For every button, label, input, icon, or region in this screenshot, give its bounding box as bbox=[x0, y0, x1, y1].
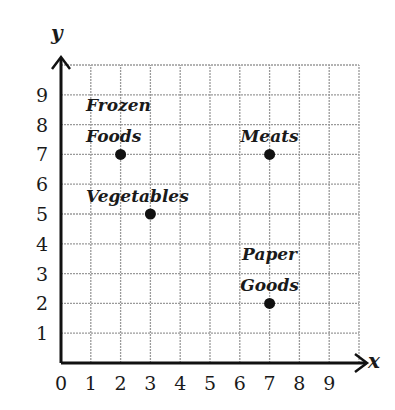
x-tick-label: 6 bbox=[234, 372, 246, 394]
data-point-label: Paper bbox=[241, 244, 298, 264]
y-axis-label: y bbox=[50, 21, 64, 45]
y-tick-label: 3 bbox=[36, 263, 48, 285]
x-tick-label: 4 bbox=[174, 372, 186, 394]
x-tick-label: 2 bbox=[115, 372, 127, 394]
data-point-label: Meats bbox=[240, 126, 300, 146]
y-tick-labels: 123456789 bbox=[36, 84, 48, 344]
data-point-label: Vegetables bbox=[86, 186, 189, 206]
data-points: FrozenFoodsMeatsVegetablesPaperGoods bbox=[85, 95, 299, 309]
x-tick-label: 0 bbox=[55, 372, 67, 394]
y-tick-label: 7 bbox=[36, 143, 48, 165]
x-tick-label: 3 bbox=[144, 372, 156, 394]
y-tick-label: 5 bbox=[36, 203, 48, 225]
data-point-label: Goods bbox=[240, 275, 299, 295]
y-tick-label: 2 bbox=[36, 292, 48, 314]
y-tick-label: 6 bbox=[36, 173, 48, 195]
x-tick-label: 8 bbox=[293, 372, 305, 394]
data-point-marker bbox=[115, 149, 126, 160]
data-point-label: Frozen bbox=[85, 95, 151, 115]
x-tick-labels: 0123456789 bbox=[55, 372, 335, 394]
coordinate-grid-chart: 0123456789 123456789 FrozenFoodsMeatsVeg… bbox=[0, 0, 395, 410]
data-point-label: Foods bbox=[85, 126, 142, 146]
data-point-marker bbox=[264, 149, 275, 160]
data-point-group: PaperGoods bbox=[240, 244, 299, 309]
x-tick-label: 7 bbox=[264, 372, 276, 394]
x-tick-label: 5 bbox=[204, 372, 216, 394]
y-tick-label: 1 bbox=[36, 322, 48, 344]
y-tick-label: 8 bbox=[36, 114, 48, 136]
x-tick-label: 9 bbox=[323, 372, 335, 394]
y-tick-label: 4 bbox=[36, 233, 48, 255]
y-tick-label: 9 bbox=[36, 84, 48, 106]
data-point-group: FrozenFoods bbox=[85, 95, 151, 159]
data-point-marker bbox=[145, 209, 156, 220]
x-axis-label: x bbox=[367, 349, 381, 373]
data-point-marker bbox=[264, 298, 275, 309]
x-tick-label: 1 bbox=[85, 372, 97, 394]
